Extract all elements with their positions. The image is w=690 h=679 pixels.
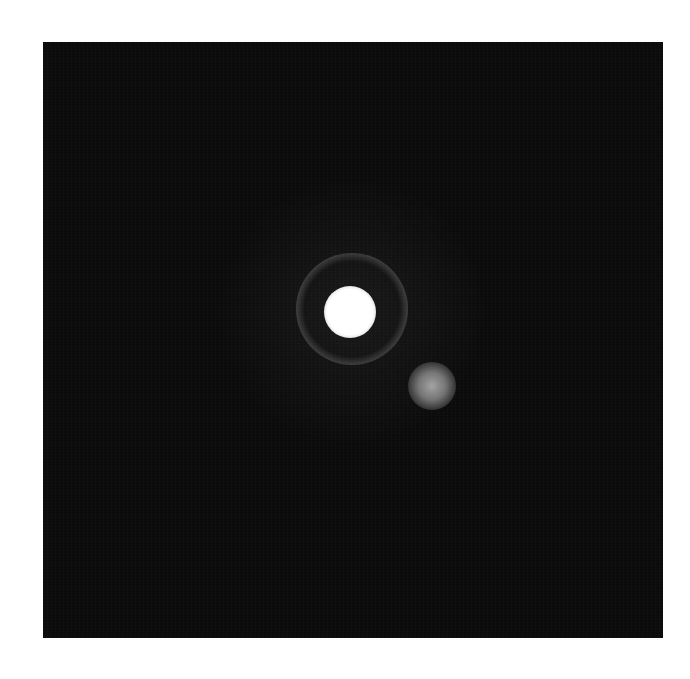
image-panel xyxy=(43,42,663,638)
primary-star xyxy=(324,286,376,338)
companion-star xyxy=(408,362,456,410)
